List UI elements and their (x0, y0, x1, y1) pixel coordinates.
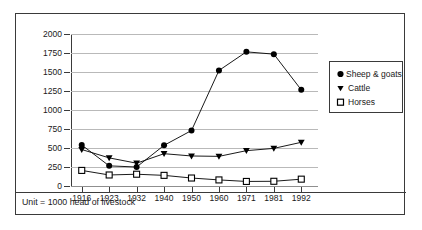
data-point-square (243, 178, 249, 184)
chart-frame: 025050075010001250150017502000 191619231… (15, 13, 405, 215)
legend-label-cattle: Cattle (348, 84, 370, 93)
y-axis-tick (64, 110, 70, 111)
chart-caption: Unit = 1000 head of livestock (22, 198, 135, 207)
chart-area: 025050075010001250150017502000 191619231… (16, 14, 406, 216)
data-point-circle (298, 87, 304, 93)
data-point-square (298, 176, 304, 182)
series-line-cattle (82, 142, 302, 163)
data-point-circle (271, 51, 277, 57)
x-axis-tick-label: 1940 (155, 194, 174, 203)
open-square-icon (336, 97, 348, 107)
data-point-square (216, 177, 222, 183)
chart-legend: Sheep & goats Cattle Horses (329, 61, 403, 113)
y-axis-tick (64, 91, 70, 92)
y-axis-tick (64, 148, 70, 149)
data-point-square (79, 167, 85, 173)
y-axis-tick-label: 500 (48, 144, 62, 153)
data-point-circle (216, 67, 222, 73)
y-axis-tick-label: 250 (48, 163, 62, 172)
y-axis-tick-label: 2000 (43, 30, 62, 39)
data-point-circle (161, 142, 167, 148)
data-point-square (161, 172, 167, 178)
y-axis-tick (64, 186, 70, 187)
y-axis-tick (64, 53, 70, 54)
legend-label-sheep-goats: Sheep & goats (346, 70, 402, 79)
filled-circle-icon (336, 69, 346, 79)
y-axis-tick-label: 750 (48, 125, 62, 134)
x-axis-tick-label: 1992 (292, 194, 311, 203)
y-axis-tick (64, 167, 70, 168)
data-point-circle (243, 49, 249, 55)
filled-triangle-down-icon (336, 83, 348, 93)
data-point-circle (106, 163, 112, 169)
data-point-square (106, 172, 112, 178)
x-axis-tick-label: 1960 (209, 194, 228, 203)
y-axis-tick-label: 1500 (43, 68, 62, 77)
x-axis-tick-label: 1971 (237, 194, 256, 203)
y-axis-tick-label: 1750 (43, 49, 62, 58)
legend-label-horses: Horses (348, 98, 375, 107)
y-axis-tick-label: 1000 (43, 106, 62, 115)
y-axis-tick (64, 34, 70, 35)
data-point-square (271, 178, 277, 184)
series-lines (71, 34, 318, 186)
x-axis-tick-label: 1981 (264, 194, 283, 203)
plot-area: 025050075010001250150017502000 (71, 34, 318, 186)
caption-divider (16, 192, 406, 193)
y-axis-tick-label: 1250 (43, 87, 62, 96)
legend-item-cattle: Cattle (336, 81, 398, 95)
y-axis-tick (64, 72, 70, 73)
x-axis-tick-label: 1950 (182, 194, 201, 203)
y-axis-tick (64, 129, 70, 130)
legend-item-horses: Horses (336, 95, 398, 109)
data-point-square (189, 175, 195, 181)
legend-item-sheep-goats: Sheep & goats (336, 67, 398, 81)
data-point-square (134, 171, 140, 177)
data-point-circle (189, 128, 195, 134)
series-line-sheep-goats (82, 52, 302, 167)
y-axis-tick-label: 0 (57, 182, 62, 191)
